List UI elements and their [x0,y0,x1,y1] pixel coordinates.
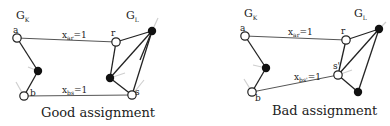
node-r [342,36,350,44]
assignment-diagram: GK GL a b r s xar=1 xbs=1 Good assignmen… [0,0,390,126]
node-r [112,38,120,46]
node-a-label: a [240,23,246,33]
assignment-edges [245,36,346,92]
node-l-filled-top [148,27,156,35]
edge-bs-label: xbs=1 [62,85,87,96]
node-l-filled-bottom [354,88,362,96]
node-a [13,34,21,42]
node-r-label: r [111,28,116,38]
caption-bad: Bad assignment [272,103,378,118]
node-r-label: r [341,26,346,36]
node-a [241,32,249,40]
node-s-label: s [135,87,140,97]
graph-k-label: GK [244,7,258,21]
graph-k-label: GK [16,9,30,23]
graph-k-edges [245,36,266,92]
panel-bad-assignment: GK GL a b r s' xar=1 xbs'=1 Bad assignme… [240,7,386,118]
node-s-prime-label: s' [333,61,340,71]
node-a-label: a [13,25,19,35]
graph-l-label: GL [126,9,139,23]
panel-good-assignment: GK GL a b r s xar=1 xbs=1 Good assignmen… [13,9,158,120]
node-l-filled-top [375,25,383,33]
node-s-prime [334,71,342,79]
node-l-filled-mid [106,74,114,82]
node-b-label: b [30,88,36,98]
node-k-filled [34,67,42,75]
graph-l-label: GL [354,7,367,21]
node-b-label: b [255,93,261,103]
caption-good: Good assignment [41,105,156,120]
edge-ar-label: xar=1 [288,27,313,38]
edge-bs-prime-label: xbs'=1 [294,72,321,83]
node-k-filled [262,64,270,72]
node-b [20,92,28,100]
edge-ar-label: xar=1 [62,30,87,41]
